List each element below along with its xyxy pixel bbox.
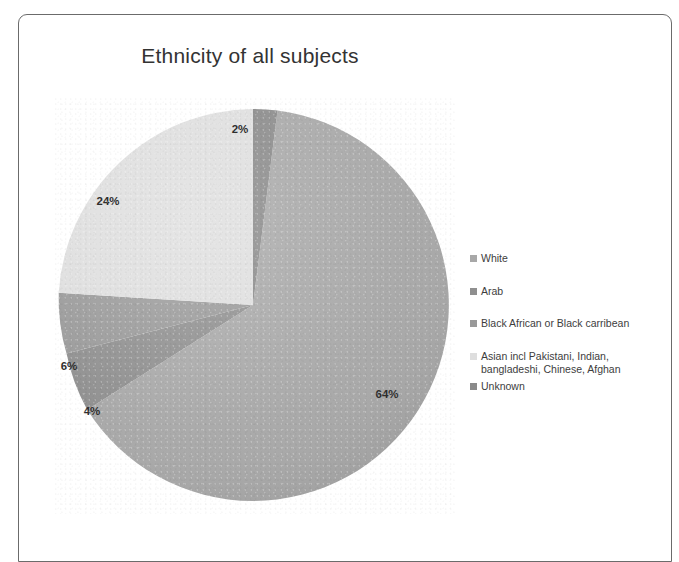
legend-swatch-white [470,255,477,262]
legend-item-unknown: Unknown [470,380,670,394]
chart-legend: White Arab Black African or Black carrib… [470,252,670,412]
legend-item-arab: Arab [470,285,670,299]
legend-swatch-asian [470,353,477,360]
pie-label-white: 64% [375,388,398,400]
legend-label-black-african: Black African or Black carribean [481,317,629,331]
pie-label-arab: 4% [84,405,101,417]
legend-label-unknown: Unknown [481,380,525,394]
pie-label-asian: 24% [96,195,119,207]
legend-label-white: White [481,252,508,266]
legend-item-black-african: Black African or Black carribean [470,317,670,331]
pie-label-black-african: 6% [61,360,78,372]
pie-label-unknown: 2% [232,123,249,135]
pie-chart-plot-area: 2% 24% 6% 4% 64% [55,98,455,514]
legend-swatch-unknown [470,383,477,390]
legend-label-arab: Arab [481,285,503,299]
legend-swatch-black-african [470,320,477,327]
legend-item-asian: Asian incl Pakistani, Indian, bangladesh… [470,350,670,377]
legend-item-white: White [470,252,670,266]
pie-svg: 2% 24% 6% 4% 64% [55,98,455,514]
chart-title: Ethnicity of all subjects [0,44,500,68]
legend-label-asian: Asian incl Pakistani, Indian, bangladesh… [481,350,621,377]
legend-swatch-arab [470,288,477,295]
